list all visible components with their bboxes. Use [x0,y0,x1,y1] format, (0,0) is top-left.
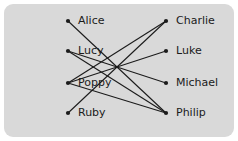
graph-node-luke [164,49,168,53]
node-label-alice: Alice [78,15,104,26]
graph-node-philip [164,111,168,115]
graph-node-lucy [66,49,70,53]
node-label-philip: Philip [176,107,206,118]
graph-node-poppy [66,81,70,85]
graph-node-michael [164,81,168,85]
node-label-poppy: Poppy [78,77,111,88]
node-label-lucy: Lucy [78,45,103,56]
bipartite-graph-screenshot: AliceLucyPoppyRubyCharlieLukeMichaelPhil… [0,0,238,141]
edges-group [68,21,166,113]
node-label-michael: Michael [176,77,218,88]
graph-node-alice [66,19,70,23]
graph-node-charlie [164,19,168,23]
node-label-charlie: Charlie [176,15,215,26]
node-label-luke: Luke [176,45,202,56]
graph-node-ruby [66,111,70,115]
node-label-ruby: Ruby [78,107,106,118]
